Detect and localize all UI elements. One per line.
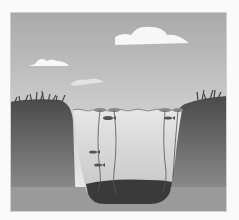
pond-sediment: [86, 180, 172, 205]
pond-cross-section-illustration: [10, 12, 227, 212]
